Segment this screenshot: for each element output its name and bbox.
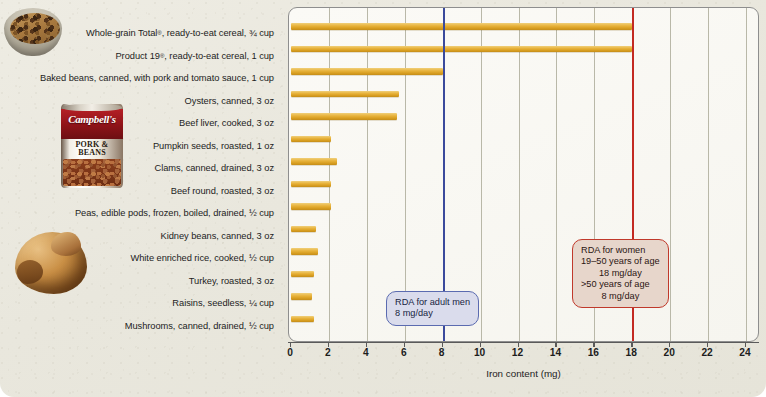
x-axis-title: Iron content (mg) [288, 368, 759, 379]
callout-women-line1: RDA for women [581, 245, 660, 256]
category-label-column: Whole-grain Total®, ready-to-eat cereal,… [0, 22, 281, 337]
x-tick-label-14: 14 [550, 347, 561, 358]
category-label: White enriched rice, cooked, ½ cup [0, 247, 281, 270]
category-label: Oysters, canned, 3 oz [0, 90, 281, 113]
figure-page: Campbell's PORK &BEANS Whole-grain Total… [0, 0, 766, 397]
callout-women-line4: >50 years of age [581, 279, 660, 290]
plot-area: RDA for adult men 8 mg/day RDA for women… [288, 7, 759, 342]
callout-women-line2: 19–50 years of age [581, 256, 660, 267]
x-axis-line [288, 342, 759, 343]
callout-rda-women: RDA for women 19–50 years of age 18 mg/d… [572, 239, 669, 308]
bar [291, 23, 632, 30]
x-tick-label-0: 0 [287, 347, 293, 358]
x-tick-label-10: 10 [474, 347, 485, 358]
x-tick-label-2: 2 [325, 347, 331, 358]
gridline-20 [670, 8, 671, 341]
x-tick-label-12: 12 [512, 347, 523, 358]
category-label: Mushrooms, canned, drained, ½ cup [0, 315, 281, 338]
category-label: Product 19®, ready-to-eat cereal, 1 cup [0, 45, 281, 68]
bar [291, 203, 331, 210]
x-tick-label-24: 24 [739, 347, 750, 358]
bar [291, 113, 397, 120]
gridline-10 [481, 8, 482, 341]
callout-men-line1: RDA for adult men [395, 297, 470, 308]
x-tick-label-8: 8 [439, 347, 445, 358]
bar [291, 248, 318, 255]
bar [291, 226, 316, 233]
x-tick-label-20: 20 [663, 347, 674, 358]
category-label: Pumpkin seeds, roasted, 1 oz [0, 135, 281, 158]
category-label: Beef liver, cooked, 3 oz [0, 112, 281, 135]
gridline-14 [556, 8, 557, 341]
x-tick-label-6: 6 [401, 347, 407, 358]
gridline-2 [329, 8, 330, 341]
category-label: Baked beans, canned, with pork and tomat… [0, 67, 281, 90]
bar [291, 181, 331, 188]
bar [291, 91, 399, 98]
bar [291, 316, 314, 323]
bar [291, 293, 312, 300]
category-label: Turkey, roasted, 3 oz [0, 270, 281, 293]
x-tick-label-22: 22 [701, 347, 712, 358]
bar [291, 136, 331, 143]
gridline-22 [708, 8, 709, 341]
x-axis: 024681012141618202224 [288, 342, 759, 358]
category-label: Whole-grain Total®, ready-to-eat cereal,… [0, 22, 281, 45]
callout-women-line5: 8 mg/day [581, 291, 660, 302]
x-tick-label-18: 18 [626, 347, 637, 358]
callout-rda-men: RDA for adult men 8 mg/day [386, 291, 479, 326]
category-label: Beef round, roasted, 3 oz [0, 180, 281, 203]
x-tick-label-16: 16 [588, 347, 599, 358]
x-tick-label-4: 4 [363, 347, 369, 358]
gridline-4 [367, 8, 368, 341]
callout-men-line2: 8 mg/day [395, 308, 470, 319]
category-label: Clams, canned, drained, 3 oz [0, 157, 281, 180]
bar [291, 46, 632, 53]
bar [291, 271, 314, 278]
category-label: Raisins, seedless, ¼ cup [0, 292, 281, 315]
category-label: Peas, edible pods, frozen, boiled, drain… [0, 202, 281, 225]
bar [291, 158, 337, 165]
callout-women-line3: 18 mg/day [581, 268, 660, 279]
bar [291, 68, 443, 75]
gridline-12 [519, 8, 520, 341]
category-label: Kidney beans, canned, 3 oz [0, 225, 281, 248]
gridline-24 [746, 8, 747, 341]
